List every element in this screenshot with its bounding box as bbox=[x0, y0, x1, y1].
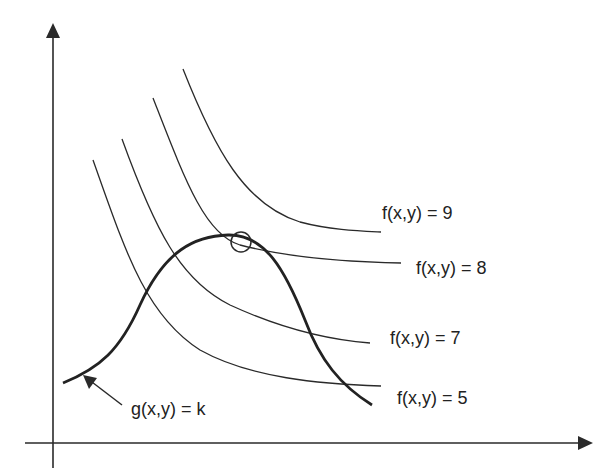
label-level-9: f(x,y) = 9 bbox=[382, 203, 453, 223]
level-curve-7 bbox=[122, 139, 370, 343]
level-curve-9 bbox=[183, 69, 381, 232]
constraint-pointer-arrowhead-icon bbox=[83, 375, 97, 389]
axes bbox=[25, 23, 593, 468]
label-level-8: f(x,y) = 8 bbox=[416, 258, 487, 278]
diagram-canvas: f(x,y) = 9 f(x,y) = 8 f(x,y) = 7 f(x,y) … bbox=[0, 0, 612, 475]
y-axis-arrow-icon bbox=[46, 23, 60, 38]
x-axis-arrow-icon bbox=[578, 436, 593, 450]
level-curves bbox=[93, 69, 401, 386]
level-curve-5 bbox=[93, 160, 381, 386]
label-constraint: g(x,y) = k bbox=[131, 399, 207, 419]
label-level-5: f(x,y) = 5 bbox=[397, 388, 468, 408]
label-level-7: f(x,y) = 7 bbox=[390, 328, 461, 348]
level-curve-8 bbox=[153, 98, 401, 263]
constraint-curve bbox=[63, 235, 372, 405]
